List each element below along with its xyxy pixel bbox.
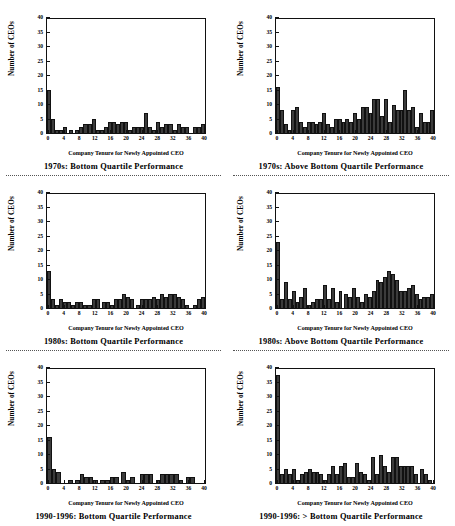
x-axis-label: 24 [139, 136, 145, 142]
y-axis-label: 20 [266, 73, 272, 79]
y-axis-tick [275, 236, 279, 237]
y-axis-label: 25 [266, 59, 272, 65]
y-axis-label: 35 [37, 380, 43, 386]
y-axis-tick [46, 367, 50, 368]
histogram-bar [428, 480, 432, 483]
x-axis-tick [64, 130, 65, 134]
x-axis-label: 40 [430, 486, 436, 492]
x-axis-label: 12 [92, 311, 98, 317]
panel-title: 1970s: Bottom Quartile Performance [0, 162, 227, 171]
x-axis-label: 16 [108, 136, 114, 142]
x-axis-label: 12 [92, 136, 98, 142]
x-axis-label: 12 [321, 486, 327, 492]
x-axis-label: 16 [337, 136, 343, 142]
x-axis-tick [386, 305, 387, 309]
y-axis-tick [46, 46, 50, 47]
x-axis-label: 4 [62, 486, 65, 492]
x-axis-tick [324, 130, 325, 134]
plot-area: 05101520253035400481216202428323640 [275, 368, 435, 484]
histogram-bar [149, 474, 154, 483]
panel-middle-left: Number of CEOs 0510152025303540048121620… [0, 175, 227, 350]
y-axis-tick [275, 425, 279, 426]
x-axis-label: 4 [291, 136, 294, 142]
x-axis-tick [371, 305, 372, 309]
y-axis-label: 20 [266, 248, 272, 254]
x-axis-label: 36 [186, 311, 192, 317]
y-axis-tick [275, 104, 279, 105]
y-axis-tick [46, 396, 50, 397]
x-axis-tick [402, 480, 403, 484]
x-axis-tick [293, 130, 294, 134]
histogram-1990-1996-bottom-quartile: Number of CEOs 0510152025303540048121620… [0, 350, 227, 526]
y-axis-tick [46, 207, 50, 208]
x-axis-label: 28 [383, 311, 389, 317]
histogram-bar [276, 242, 280, 308]
panel-title: 1970s: Above Bottom Quartile Performance [227, 162, 455, 171]
x-axis-label: 32 [170, 311, 176, 317]
x-axis-tick [126, 130, 127, 134]
x-axis-title: Company Tenure for Newly Appointed CEO [275, 500, 435, 506]
panel-title: 1990-1996: > Bottom Quartile Performance [227, 512, 455, 521]
x-axis-tick [355, 480, 356, 484]
histogram-bar [130, 299, 134, 308]
y-axis-tick [46, 61, 50, 62]
x-axis-tick [417, 130, 418, 134]
x-axis-label: 16 [108, 311, 114, 317]
x-axis-label: 20 [352, 311, 358, 317]
y-axis-label: 15 [37, 88, 43, 94]
y-axis-label: 0 [269, 306, 272, 312]
x-axis-label: 8 [307, 311, 310, 317]
y-axis-label: 10 [37, 452, 43, 458]
y-axis-label: 15 [266, 263, 272, 269]
y-axis-tick [46, 250, 50, 251]
x-axis-label: 20 [352, 486, 358, 492]
y-axis-label: 25 [37, 234, 43, 240]
x-axis-tick [293, 480, 294, 484]
x-axis-label: 8 [78, 136, 81, 142]
y-axis-label: 40 [266, 15, 272, 21]
x-axis-tick [95, 130, 96, 134]
y-axis-tick [275, 61, 279, 62]
x-axis-title: Company Tenure for Newly Appointed CEO [46, 325, 206, 331]
y-axis-label: 10 [266, 277, 272, 283]
y-axis-label: 0 [40, 131, 43, 137]
x-axis-tick [48, 480, 49, 484]
y-axis-label: 5 [40, 467, 43, 473]
x-axis-title: Company Tenure for Newly Appointed CEO [46, 500, 206, 506]
x-axis-tick [142, 480, 143, 484]
x-axis-label: 36 [186, 486, 192, 492]
y-axis-label: 40 [37, 365, 43, 371]
panel-top-left: Number of CEOs 0510152025303540048121620… [0, 0, 227, 175]
x-axis-tick [308, 480, 309, 484]
y-axis-tick [46, 382, 50, 383]
panel-bottom-right: Number of CEOs 0510152025303540048121620… [227, 350, 455, 526]
y-axis-tick [275, 119, 279, 120]
y-axis-label: 5 [269, 117, 272, 123]
histogram-1970s-bottom-quartile: Number of CEOs 0510152025303540048121620… [0, 0, 227, 175]
y-axis-tick [275, 396, 279, 397]
x-axis-tick [339, 480, 340, 484]
plot-area: 05101520253035400481216202428323640 [46, 193, 206, 309]
y-axis-label: 0 [40, 306, 43, 312]
x-axis-tick [95, 480, 96, 484]
y-axis-label: 35 [37, 205, 43, 211]
x-axis-tick [173, 480, 174, 484]
x-axis-tick [142, 130, 143, 134]
y-axis-label: 25 [37, 59, 43, 65]
x-axis-label: 0 [276, 486, 279, 492]
x-axis-tick [417, 480, 418, 484]
panel-title: 1980s: Above Bottom Quartile Performance [227, 337, 455, 346]
y-axis-tick [46, 411, 50, 412]
x-axis-tick [157, 305, 158, 309]
y-axis-label: 15 [266, 88, 272, 94]
y-axis-tick [275, 294, 279, 295]
plot-area: 05101520253035400481216202428323640 [46, 18, 206, 134]
y-axis-label: 15 [37, 263, 43, 269]
bar-series [276, 19, 434, 133]
y-axis-label: 20 [37, 73, 43, 79]
x-axis-tick [79, 305, 80, 309]
x-axis-label: 20 [352, 136, 358, 142]
x-axis-label: 4 [291, 486, 294, 492]
y-axis-label: 5 [40, 117, 43, 123]
x-axis-tick [173, 305, 174, 309]
